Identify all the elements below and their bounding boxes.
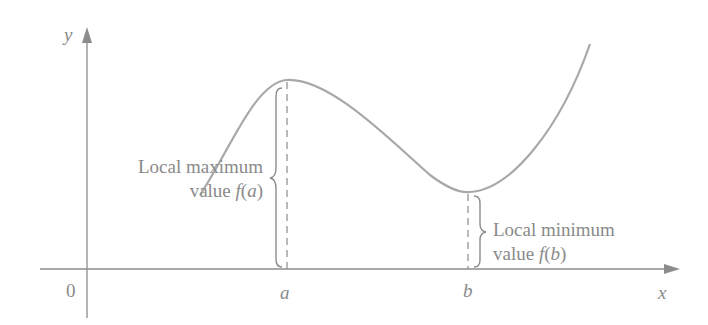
point-b-label: b bbox=[463, 280, 473, 302]
value-text: value bbox=[493, 243, 539, 264]
paren-close: ) bbox=[560, 243, 566, 264]
local-min-annotation: Local minimum value f(b) bbox=[493, 219, 615, 265]
origin-label: 0 bbox=[66, 280, 76, 302]
y-axis-arrow-icon bbox=[82, 27, 92, 43]
local-max-line2: value f(a) bbox=[100, 180, 263, 202]
local-min-line1: Local minimum bbox=[493, 219, 615, 241]
y-axis-label: y bbox=[64, 24, 72, 46]
local-max-line1: Local maximum bbox=[100, 156, 263, 178]
point-a-label: a bbox=[280, 282, 290, 304]
brace-max-icon bbox=[270, 88, 282, 267]
arg-b: b bbox=[551, 243, 561, 264]
brace-min-icon bbox=[474, 196, 486, 267]
x-axis-arrow-icon bbox=[664, 264, 680, 274]
arg-a: a bbox=[247, 180, 257, 201]
x-axis-label: x bbox=[658, 282, 666, 304]
value-text: value bbox=[190, 180, 236, 201]
local-min-line2: value f(b) bbox=[493, 243, 615, 265]
paren-close: ) bbox=[257, 180, 263, 201]
local-max-annotation: Local maximum value f(a) bbox=[100, 156, 263, 202]
